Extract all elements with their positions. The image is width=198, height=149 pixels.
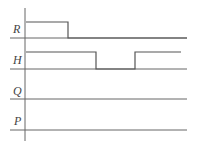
signal-label-p: P (13, 114, 22, 128)
signal-p: P (10, 114, 187, 130)
signal-r: R (10, 22, 187, 38)
signal-label-q: Q (13, 84, 22, 98)
signal-h: H (10, 52, 187, 69)
waveform-r (26, 22, 187, 38)
timing-diagram: R H Q P (0, 0, 198, 149)
waveform-h (26, 52, 181, 69)
signal-label-h: H (12, 53, 23, 67)
signal-q: Q (10, 84, 187, 99)
signal-label-r: R (12, 22, 21, 36)
